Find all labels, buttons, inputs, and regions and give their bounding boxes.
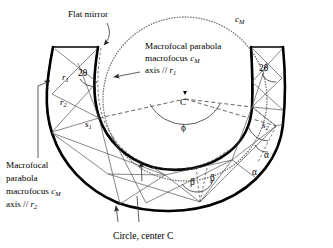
alpha-upper-label: α [264,150,269,160]
center-point-marker [183,91,187,95]
macrofocal-r1-line3: axis // r1 [145,65,176,76]
macrofocal-r1-line3-pre: axis // [145,65,170,75]
two-theta-right-arc [262,74,276,82]
macrofocal-r1-leader [114,72,140,77]
s1-sub: 1 [89,123,92,130]
macrofocal-r2-line1: Macrofocal [6,160,49,170]
two-theta-right-label: 2θ [259,63,269,73]
macrofocal-r1-line1: Macrofocal parabola [145,41,221,51]
macrofocal-r1-line3-sub: 1 [173,69,176,76]
flat-mirror-label: Flat mirror [68,9,108,19]
right-arm-rays [252,49,283,110]
r2-label: r2 [60,97,68,108]
phi-label: ϕ [181,123,186,133]
macrofocal-r1-line2-pre: macrofocus [145,53,190,63]
r1-label: r1 [62,72,69,83]
macrofocal-r2-line3: macrofocus cM [6,186,61,197]
macrofocal-r2-line4-pre: axis // [6,199,31,209]
macrofocal-r2-line3-sub: M [54,190,61,197]
circle-caption-arrow-left [116,206,118,222]
cm-curve-sub: M [238,18,245,25]
r2-sub: 2 [64,101,68,108]
macrofocal-r2-line4: axis // r2 [6,199,38,210]
beta-left-label: β [190,177,195,187]
macrofocal-r1-line2-sub: M [193,57,200,64]
left-arm-rays [52,49,99,132]
flat-mirror-leader [104,23,109,45]
macrofocal-r1-line2: macrofocus cM [145,53,200,64]
macrofocal-r2-line2: parabola [6,173,38,183]
macrofocal-parabola-figure: Flat mirror Macrofocal parabola macrofoc… [0,0,333,248]
center-point-label: C [180,97,186,107]
alpha-lower-label: α [252,167,257,177]
circle-caption-label: Circle, center C [113,230,173,241]
macrofocal-r2-line3-pre: macrofocus [6,186,51,196]
cm-curve-label: cM [235,14,245,25]
inner-bowl-arrow [141,162,142,181]
beta-right-label: β [210,173,215,183]
s2-sub: 2 [266,124,270,131]
s2-label: s2 [262,120,270,131]
macrofocal-r2-line4-sub: 2 [34,203,38,210]
two-theta-left-label: 2θ [78,68,88,78]
r1-sub: 1 [66,76,69,83]
phi-angle-arc [150,104,220,125]
